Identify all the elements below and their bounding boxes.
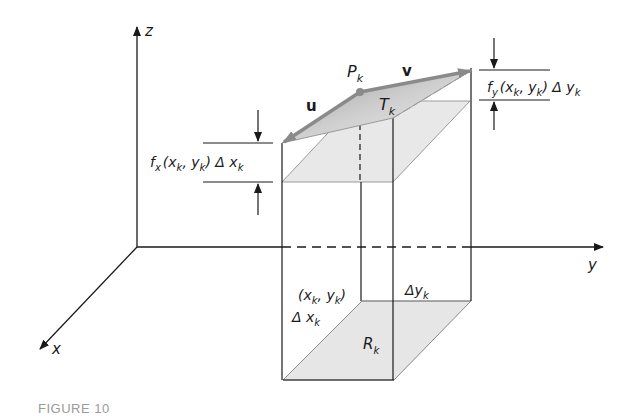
diagram-canvas: z y x Pk Tk u v fx(xk, yk) Δ xk fy(xk, y… bbox=[0, 0, 644, 419]
fx-term-label: fx(xk, yk) Δ xk bbox=[150, 154, 245, 173]
fy-term-label: fy(xk, yk) Δ yk bbox=[487, 79, 582, 98]
x-axis-label: x bbox=[51, 340, 61, 358]
y-axis-label: y bbox=[587, 256, 598, 274]
figure-caption: FIGURE 10 bbox=[38, 401, 110, 416]
base-point-label: (xk, yk) bbox=[298, 287, 346, 306]
delta-x-label: Δ xk bbox=[291, 309, 321, 328]
z-axis-label: z bbox=[144, 22, 154, 40]
pk-label: Pk bbox=[347, 62, 364, 85]
delta-y-label: Δyk bbox=[404, 282, 430, 301]
vector-v-label: v bbox=[402, 62, 412, 80]
point-pk bbox=[356, 88, 364, 96]
vector-u-label: u bbox=[306, 97, 317, 115]
x-axis bbox=[40, 247, 137, 349]
